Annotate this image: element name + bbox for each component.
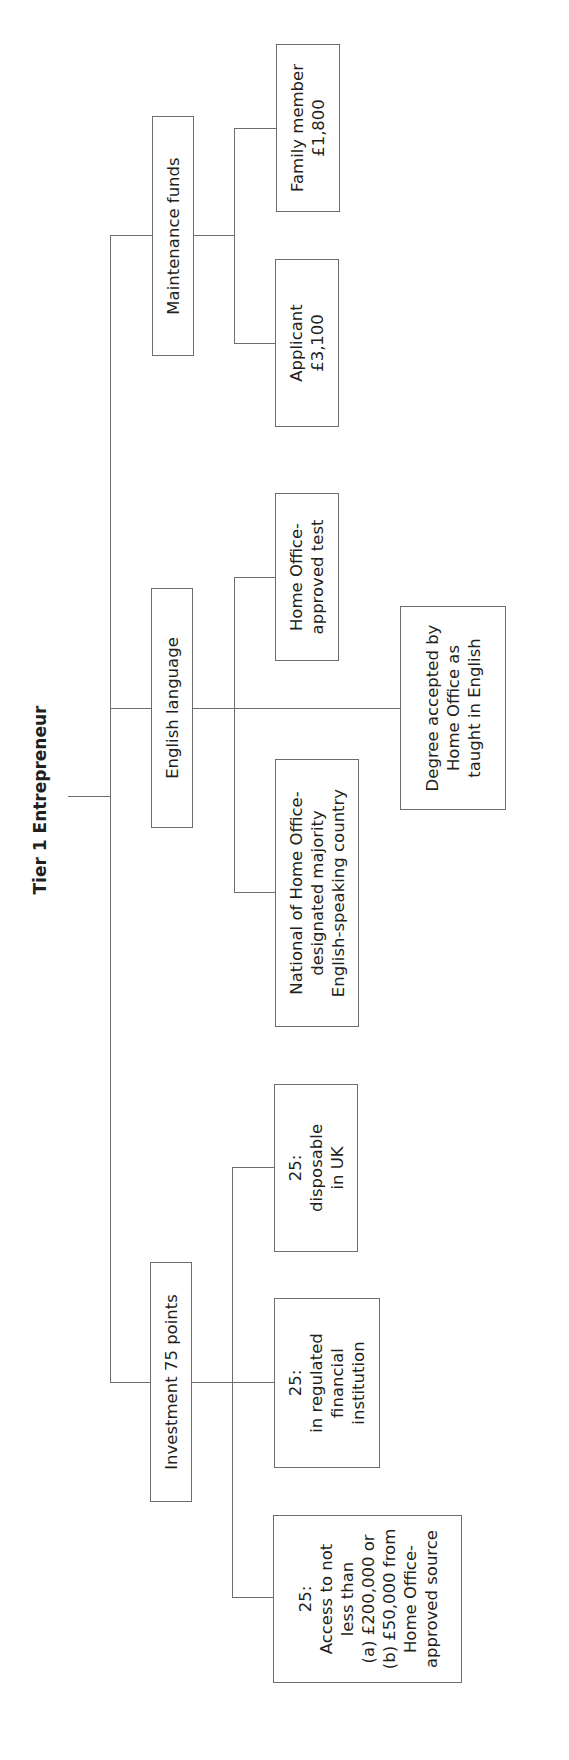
english-branch	[234, 577, 235, 893]
chart-title: Tier 1 Entrepreneur	[30, 706, 50, 895]
title-stem	[68, 796, 110, 797]
english-language-box: English language	[151, 588, 193, 828]
approved-test-line-1: Home Office-	[286, 520, 307, 635]
connector-national	[234, 892, 275, 893]
connector-english	[110, 708, 151, 709]
connector-investment	[110, 1382, 150, 1383]
access-line-2: Access to not	[315, 1529, 336, 1669]
disposable-line-1: 25:	[285, 1124, 306, 1212]
applicant-line-1: Applicant	[286, 304, 307, 382]
national-line-2: designated majority	[307, 789, 328, 997]
regulated-line-1: 25:	[285, 1333, 306, 1433]
connector-approved-test	[234, 577, 275, 578]
access-box: 25: Access to not less than (a) £200,000…	[273, 1515, 462, 1683]
approved-test-box: Home Office- approved test	[275, 493, 339, 661]
connector-disposable	[232, 1167, 274, 1168]
applicant-box: Applicant £3,100	[275, 259, 339, 427]
approved-test-line-2: approved test	[307, 520, 328, 635]
degree-box: Degree accepted by Home Office as taught…	[400, 606, 506, 810]
degree-line-1: Degree accepted by	[422, 625, 443, 792]
disposable-line-3: in UK	[327, 1124, 348, 1212]
maintenance-funds-box: Maintenance funds	[152, 116, 194, 356]
applicant-line-2: £3,100	[307, 304, 328, 382]
connector-applicant	[234, 343, 276, 344]
investment-box: Investment 75 points	[150, 1262, 192, 1502]
access-line-3: less than	[336, 1529, 357, 1669]
national-box: National of Home Office- designated majo…	[275, 759, 359, 1027]
national-line-3: English-speaking country	[328, 789, 349, 997]
access-line-4: (a) £200,000 or	[357, 1529, 378, 1669]
disposable-line-2: disposable	[306, 1124, 327, 1212]
family-member-line-1: Family member	[287, 64, 308, 192]
connector-maintenance	[110, 235, 152, 236]
access-line-5: (b) £50,000 from	[378, 1529, 399, 1669]
regulated-line-4: institution	[348, 1333, 369, 1433]
regulated-line-3: financial	[327, 1333, 348, 1433]
investment-branch	[232, 1167, 233, 1598]
connector-family	[234, 128, 276, 129]
investment-label: Investment 75 points	[161, 1294, 182, 1470]
maintenance-funds-label: Maintenance funds	[163, 157, 184, 314]
english-language-label: English language	[162, 637, 183, 779]
main-trunk	[110, 235, 111, 1383]
national-line-1: National of Home Office-	[286, 789, 307, 997]
org-chart: Tier 1 Entrepreneur Maintenance funds Fa…	[0, 0, 569, 1760]
connector-investment-children	[192, 1382, 274, 1383]
disposable-box: 25: disposable in UK	[274, 1084, 358, 1252]
regulated-line-2: in regulated	[306, 1333, 327, 1433]
maintenance-branch	[234, 128, 235, 344]
connector-maintenance-children	[194, 235, 234, 236]
family-member-box: Family member £1,800	[276, 44, 340, 212]
connector-english-degree	[193, 708, 400, 709]
degree-line-2: Home Office as	[443, 625, 464, 792]
degree-line-3: taught in English	[464, 625, 485, 792]
regulated-box: 25: in regulated financial institution	[274, 1298, 380, 1468]
connector-access	[232, 1597, 273, 1598]
family-member-line-2: £1,800	[308, 64, 329, 192]
access-line-6: Home Office-	[399, 1529, 420, 1669]
access-line-7: approved source	[420, 1529, 441, 1669]
access-line-1: 25:	[294, 1529, 315, 1669]
